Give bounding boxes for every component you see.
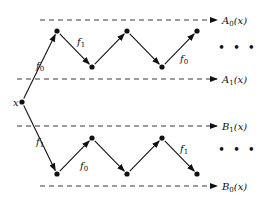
edge-lower-1 (95, 141, 124, 171)
edge-lower-2 (130, 141, 159, 171)
level-label-a1: A1(x) (221, 74, 247, 87)
node (159, 135, 164, 140)
edge-label-f0: f0 (79, 160, 88, 173)
edge-labels: f0f1f0f1f0f1• • •• • • (35, 36, 256, 173)
edge-upper-0 (60, 34, 89, 64)
level-label-b1: B1(x) (221, 121, 247, 134)
edge-label-f1: f1 (35, 136, 44, 149)
edge-label-f0: f0 (35, 60, 44, 73)
node (194, 28, 199, 33)
edge-label-f1: f1 (76, 36, 85, 49)
node (89, 135, 94, 140)
node (159, 64, 164, 69)
edge-upper-1 (95, 34, 124, 64)
level-label-b0: B0(x) (221, 181, 247, 194)
node (54, 171, 59, 176)
edge-upper-2 (130, 34, 159, 64)
edge-label-f0: f0 (179, 53, 188, 66)
edges (24, 34, 194, 171)
level-label-a0: A0(x) (221, 15, 247, 28)
start-node (19, 99, 24, 104)
ellipsis: • • • (218, 41, 256, 55)
recursive-function-diagram: A0(x)A1(x)B1(x)B0(x) x f0f1f0f1f0f1• • •… (0, 0, 256, 205)
nodes: x (13, 28, 200, 176)
node (124, 171, 129, 176)
node (194, 171, 199, 176)
node (89, 64, 94, 69)
start-node-label: x (13, 97, 19, 108)
ellipsis: • • • (218, 143, 256, 157)
node (124, 28, 129, 33)
node (54, 28, 59, 33)
edge-label-f1: f1 (179, 143, 188, 156)
